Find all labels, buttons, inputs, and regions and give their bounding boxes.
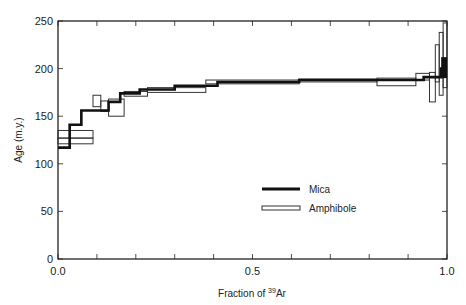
y-tick-label: 150 <box>35 110 53 122</box>
legend-label-mica: Mica <box>309 184 331 195</box>
y-axis-ticks: 050100150200250 <box>35 15 447 265</box>
x-tick-label: 1.0 <box>439 265 454 277</box>
mica-final-step-box <box>441 57 447 78</box>
y-tick-label: 250 <box>35 15 53 27</box>
y-tick-label: 200 <box>35 63 53 75</box>
x-tick-label: 0.0 <box>50 265 65 277</box>
amphibole-series <box>58 23 447 144</box>
x-tick-label: 0.5 <box>245 265 260 277</box>
x-axis-label-superscript: 39 <box>268 287 276 294</box>
amphibole-step-box <box>58 130 93 138</box>
x-axis-label-suffix: Ar <box>276 288 287 299</box>
legend: Mica Amphibole <box>262 184 357 214</box>
amphibole-step-box <box>93 95 101 106</box>
legend-item-mica: Mica <box>262 184 331 195</box>
plot-border <box>58 21 447 259</box>
y-axis-label: Age (m.y.) <box>13 117 24 162</box>
y-tick-label: 100 <box>35 158 53 170</box>
x-axis-label: Fraction of 39Ar <box>218 287 286 299</box>
amphibole-step-box <box>58 138 93 144</box>
x-axis-label-prefix: Fraction of <box>218 288 268 299</box>
amphibole-legend-swatch <box>262 206 300 210</box>
y-tick-label: 50 <box>41 205 53 217</box>
x-axis-ticks: 0.00.51.0 <box>50 21 454 277</box>
plot-frame <box>58 21 447 259</box>
y-tick-label: 0 <box>47 253 53 265</box>
age-spectrum-chart: 0.00.51.0 050100150200250 Age (m.y.) Fra… <box>0 0 466 305</box>
legend-item-amphibole: Amphibole <box>262 203 357 214</box>
mica-series <box>58 57 447 147</box>
legend-label-amphibole: Amphibole <box>309 203 357 214</box>
